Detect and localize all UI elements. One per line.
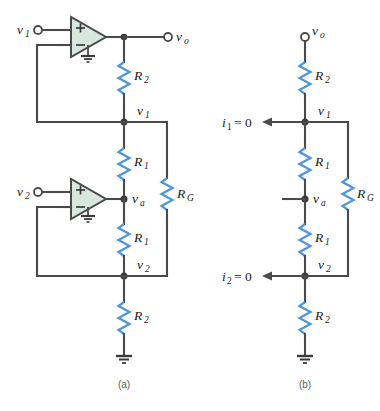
resistor-b-r1-lower[interactable]	[300, 224, 311, 256]
label-b-r2-top-sub: 2	[325, 75, 330, 85]
label-b-i1-sub: 1	[227, 122, 232, 132]
ground-symbol-a-bottom	[116, 356, 132, 363]
label-b-r2-bottom-sub: 2	[325, 315, 330, 325]
resistor-b-r2-bottom[interactable]	[300, 302, 311, 334]
label-b-i1: i	[222, 115, 226, 130]
label-a-r1-lower: R	[133, 230, 143, 245]
arrowhead-i1	[262, 118, 272, 127]
label-a-r2-bottom: R	[133, 308, 143, 323]
label-a-r2-top: R	[133, 68, 143, 83]
label-b-node-va: v	[313, 191, 319, 206]
terminal-v1-input[interactable]	[34, 26, 42, 34]
label-a-node-va-sub: a	[140, 198, 145, 208]
label-a-r2-top-sub: 2	[144, 75, 149, 85]
label-a-r1-lower-sub: 1	[144, 237, 149, 247]
label-b-i1-equals: = 0	[234, 115, 252, 130]
label-a-rg: R	[176, 186, 186, 201]
label-b-vo-output: v	[312, 23, 318, 38]
label-b-rg: R	[356, 186, 366, 201]
wire-feedback-top-opamp	[37, 45, 124, 122]
label-b-r2-bottom: R	[314, 308, 324, 323]
resistor-a-rg[interactable]	[162, 178, 173, 210]
label-b-rg-sub: G	[367, 193, 374, 203]
label-b-node-v1-sub: 1	[326, 110, 331, 120]
label-b-r1-lower: R	[314, 230, 324, 245]
ground-symbol-b-bottom	[297, 356, 313, 363]
label-vo-output-sub: o	[184, 36, 189, 46]
label-v2-input: v	[17, 184, 23, 199]
circuit-b-group: v o R 2 v 1 i 1 = 0 R 1 v a	[222, 23, 374, 390]
resistor-b-rg[interactable]	[343, 178, 354, 210]
caption-a: (a)	[118, 379, 130, 390]
label-a-r1-upper-sub: 1	[144, 161, 149, 171]
circuit-figure: v 1 v o R 2	[0, 0, 380, 411]
resistor-b-r2-top[interactable]	[300, 62, 311, 94]
label-b-i2: i	[222, 269, 226, 284]
caption-b: (b)	[299, 379, 311, 390]
label-v2-input-sub: 2	[25, 191, 30, 201]
label-a-r2-bottom-sub: 2	[144, 315, 149, 325]
label-b-vo-output-sub: o	[320, 30, 325, 40]
label-a-r1-upper: R	[133, 154, 143, 169]
label-b-r2-top: R	[314, 68, 324, 83]
label-b-r1-upper: R	[314, 154, 324, 169]
terminal-b-vo-output[interactable]	[301, 33, 309, 41]
label-b-r1-upper-sub: 1	[325, 161, 330, 171]
ground-symbol-opamp-top	[81, 56, 95, 62]
label-v1-input-sub: 1	[25, 29, 30, 39]
label-b-i2-sub: 2	[227, 276, 232, 286]
terminal-v2-input[interactable]	[34, 188, 42, 196]
terminal-vo-output[interactable]	[164, 33, 172, 41]
label-b-node-va-sub: a	[321, 198, 326, 208]
label-b-node-v1: v	[318, 103, 324, 118]
label-a-node-va: v	[132, 191, 138, 206]
label-vo-output: v	[176, 29, 182, 44]
label-b-i2-equals: = 0	[234, 269, 252, 284]
resistor-a-r2-top[interactable]	[119, 62, 130, 94]
resistor-a-r1-lower[interactable]	[119, 224, 130, 256]
schematic-canvas: v 1 v o R 2	[0, 0, 380, 411]
label-b-r1-lower-sub: 1	[325, 237, 330, 247]
circuit-a-group: v 1 v o R 2	[17, 17, 194, 390]
label-b-node-v2: v	[318, 257, 324, 272]
resistor-b-r1-upper[interactable]	[300, 148, 311, 180]
label-v1-input: v	[17, 22, 23, 37]
resistor-a-r2-bottom[interactable]	[119, 302, 130, 334]
resistor-a-r1-upper[interactable]	[119, 148, 130, 180]
label-a-node-v2: v	[137, 257, 143, 272]
arrowhead-i2	[262, 272, 272, 281]
wire-feedback-bottom-opamp	[37, 207, 124, 276]
ground-symbol-opamp-bottom	[81, 216, 95, 222]
label-a-node-v2-sub: 2	[145, 264, 150, 274]
label-a-node-v1-sub: 1	[145, 110, 150, 120]
label-b-node-v2-sub: 2	[326, 264, 331, 274]
label-a-node-v1: v	[137, 103, 143, 118]
label-a-rg-sub: G	[187, 193, 194, 203]
